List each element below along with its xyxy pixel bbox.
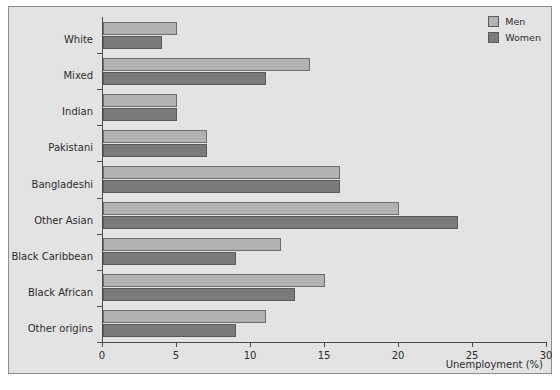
x-axis-tick [324, 342, 325, 347]
x-axis-tick [472, 342, 473, 347]
x-axis-tick [398, 342, 399, 347]
x-axis-tick [250, 342, 251, 347]
bar-group [103, 53, 546, 89]
bar-group [103, 234, 546, 270]
legend-label-women: Women [505, 32, 541, 43]
x-axis-tick-label: 10 [244, 350, 257, 361]
y-axis-tick [97, 234, 102, 235]
x-axis-tick-label: 15 [318, 350, 331, 361]
bar-women [103, 72, 266, 85]
legend-label-men: Men [505, 16, 525, 27]
y-axis-label: Mixed [63, 70, 93, 81]
chart-legend: Men Women [488, 15, 541, 44]
y-axis-label: Pakistani [48, 142, 93, 153]
bar-group [103, 17, 546, 53]
bar-group [103, 161, 546, 197]
bar-women [103, 288, 295, 301]
bar-men [103, 22, 177, 35]
x-axis-tick [176, 342, 177, 347]
bar-group [103, 270, 546, 306]
y-axis-label: Bangladeshi [32, 178, 93, 189]
legend-swatch-men [488, 16, 499, 27]
x-axis-tick [102, 342, 103, 347]
y-axis-label: Indian [62, 106, 93, 117]
bar-women [103, 144, 207, 157]
bar-women [103, 216, 458, 229]
bar-women [103, 324, 236, 337]
legend-item-men: Men [488, 15, 541, 28]
bar-men [103, 58, 310, 71]
x-axis-tick-label: 5 [173, 350, 179, 361]
y-axis-tick [97, 161, 102, 162]
bar-group [103, 125, 546, 161]
bar-men [103, 202, 399, 215]
y-axis-tick [97, 125, 102, 126]
bar-men [103, 130, 207, 143]
x-axis-tick-label: 20 [392, 350, 405, 361]
bar-women [103, 180, 340, 193]
y-axis-label: Black Caribbean [11, 250, 93, 261]
bar-women [103, 108, 177, 121]
bar-men [103, 238, 281, 251]
bar-men [103, 310, 266, 323]
y-axis-tick [97, 53, 102, 54]
bar-group [103, 306, 546, 342]
chart-figure: Men Women WhiteMixedIndianPakistaniBangl… [8, 6, 552, 374]
y-axis-label: Other origins [28, 322, 93, 333]
y-axis-label: Black African [28, 286, 93, 297]
y-axis-tick [97, 89, 102, 90]
bar-group [103, 89, 546, 125]
bar-women [103, 252, 236, 265]
y-axis-tick [97, 198, 102, 199]
legend-swatch-women [488, 32, 499, 43]
bar-women [103, 36, 162, 49]
bar-men [103, 94, 177, 107]
bar-men [103, 274, 325, 287]
bar-men [103, 166, 340, 179]
y-axis-tick [97, 306, 102, 307]
y-axis-tick [97, 270, 102, 271]
plot-area: WhiteMixedIndianPakistaniBangladeshiOthe… [102, 17, 546, 342]
x-axis-tick [546, 342, 547, 347]
y-axis-label: White [64, 34, 93, 45]
bar-group [103, 198, 546, 234]
x-axis-tick-label: 0 [99, 350, 105, 361]
legend-item-women: Women [488, 31, 541, 44]
x-axis-title: Unemployment (%) [446, 359, 543, 370]
y-axis-label: Other Asian [34, 214, 93, 225]
